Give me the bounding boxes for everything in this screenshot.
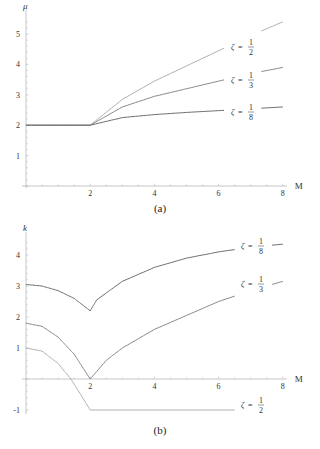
x-tick-label: 2: [88, 189, 92, 198]
x-tick-label: 6: [217, 189, 221, 198]
y-tick-label: 4: [16, 60, 20, 69]
chart-panel-a: 246812345μMζ=12ζ=13ζ=18(a): [16, 1, 303, 215]
svg-text:ζ: ζ: [241, 401, 245, 410]
svg-text:=: =: [238, 108, 243, 117]
svg-text:1: 1: [259, 275, 263, 284]
svg-text:ζ: ζ: [241, 280, 245, 289]
y-tick-label: 4: [16, 251, 20, 260]
y-tick-label: 1: [16, 152, 20, 161]
y-tick-label: 1: [16, 344, 20, 353]
svg-text:1: 1: [249, 103, 253, 112]
y-axis-label: k: [23, 223, 28, 233]
x-tick-label: 4: [152, 382, 156, 391]
series-line: [26, 250, 235, 311]
x-tick-label: 4: [152, 189, 156, 198]
series-label: ζ=12: [231, 38, 254, 57]
x-tick-label: 8: [281, 382, 285, 391]
svg-text:=: =: [248, 401, 253, 410]
series-line: [272, 244, 283, 245]
series-line: [261, 107, 282, 108]
series-13: ζ=13: [26, 67, 283, 125]
svg-text:1: 1: [259, 237, 263, 246]
svg-text:2: 2: [259, 406, 263, 415]
y-axis-label: μ: [22, 1, 28, 11]
svg-text:ζ: ζ: [231, 108, 235, 117]
svg-text:=: =: [248, 280, 253, 289]
svg-text:=: =: [238, 43, 243, 52]
series-label: ζ=13: [231, 71, 254, 90]
y-tick-label: -1: [13, 406, 20, 415]
series-line: [261, 22, 282, 31]
panel-caption: (b): [154, 424, 167, 437]
series-line: [26, 80, 224, 125]
y-tick-label: 5: [16, 30, 20, 39]
x-tick-label: 2: [88, 382, 92, 391]
svg-text:3: 3: [259, 285, 263, 294]
series-label: ζ=18: [241, 237, 264, 256]
series-label: ζ=13: [241, 275, 264, 294]
panel-caption: (a): [154, 202, 167, 215]
x-tick-label: 8: [281, 189, 285, 198]
series-13: ζ=13: [26, 275, 283, 379]
series-12: ζ=12: [26, 22, 283, 125]
svg-text:3: 3: [249, 81, 253, 90]
svg-text:=: =: [248, 242, 253, 251]
series-18: ζ=18: [26, 103, 283, 125]
y-tick-label: 3: [16, 91, 20, 100]
svg-text:1: 1: [249, 38, 253, 47]
svg-text:8: 8: [259, 247, 263, 256]
svg-text:ζ: ζ: [231, 43, 235, 52]
x-tick-label: 6: [217, 382, 221, 391]
svg-text:ζ: ζ: [241, 242, 245, 251]
svg-text:=: =: [238, 76, 243, 85]
series-line: [26, 296, 235, 379]
x-axis-label: M: [295, 374, 303, 384]
figure: 246812345μMζ=12ζ=13ζ=18(a)2468-11234kMζ=…: [0, 0, 320, 449]
series-label: ζ=12: [241, 396, 264, 415]
y-tick-label: 2: [16, 313, 20, 322]
svg-text:ζ: ζ: [231, 76, 235, 85]
chart-panel-b: 2468-11234kMζ=18ζ=13ζ=12(b): [13, 223, 302, 437]
y-tick-label: 3: [16, 282, 20, 291]
svg-text:8: 8: [249, 113, 253, 122]
svg-text:1: 1: [259, 396, 263, 405]
series-line: [26, 110, 224, 125]
y-tick-label: 2: [16, 121, 20, 130]
svg-text:2: 2: [249, 48, 253, 57]
series-line: [261, 67, 282, 71]
series-label: ζ=18: [231, 103, 254, 122]
series-18: ζ=18: [26, 237, 283, 311]
x-axis-label: M: [295, 181, 303, 191]
svg-text:1: 1: [249, 71, 253, 80]
series-line: [272, 281, 283, 284]
